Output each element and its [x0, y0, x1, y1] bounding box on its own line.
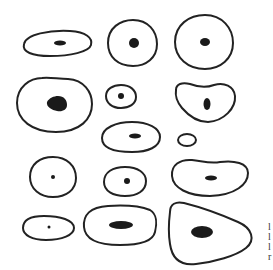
cell-outline-8	[178, 134, 196, 146]
nucleus-3	[200, 38, 210, 46]
nucleus-2	[129, 38, 139, 48]
nucleus-9	[51, 175, 55, 179]
cell-diagram	[0, 0, 273, 270]
nucleus-7	[129, 134, 141, 139]
nucleus-1	[54, 41, 66, 46]
cropped-caption-text: l l l r	[268, 222, 271, 262]
nucleus-6	[204, 98, 211, 110]
caption-line-4: r	[268, 252, 271, 262]
nucleus-5	[118, 93, 124, 99]
nucleus-11	[205, 176, 217, 181]
nucleus-4	[47, 96, 67, 111]
nucleus-12	[48, 226, 51, 229]
nucleus-14	[191, 226, 213, 238]
nucleus-13	[109, 221, 133, 229]
nucleus-10	[124, 178, 130, 184]
